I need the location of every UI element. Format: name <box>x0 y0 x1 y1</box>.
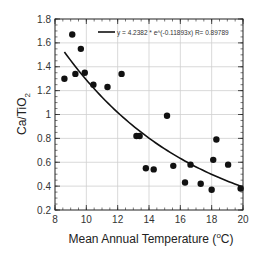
data-point <box>182 179 188 185</box>
x-tick-label: 14 <box>143 214 155 225</box>
data-point <box>151 166 157 172</box>
fit-curve <box>64 52 240 186</box>
data-point <box>72 71 78 77</box>
x-tick-label: 8 <box>52 214 58 225</box>
x-tick-label: 18 <box>206 214 218 225</box>
y-tick-label: 1.4 <box>37 61 51 72</box>
data-point <box>208 187 214 193</box>
data-point <box>104 84 110 90</box>
data-point <box>90 81 96 87</box>
data-point <box>143 165 149 171</box>
x-tick-label: 16 <box>175 214 187 225</box>
y-tick-label: 0.6 <box>37 157 51 168</box>
data-point <box>198 181 204 187</box>
data-point <box>164 112 170 118</box>
data-point <box>225 161 231 167</box>
legend-label: y = 4.2382 * e^(-0.11893x) R= 0.89789 <box>117 29 229 37</box>
data-point <box>187 161 193 167</box>
y-tick-label: 0.8 <box>37 133 51 144</box>
y-tick-labels: 0.20.40.60.811.21.41.61.8 <box>37 14 51 216</box>
data-point <box>213 136 219 142</box>
data-point <box>118 71 124 77</box>
data-point <box>61 75 67 81</box>
y-tick-label: 0.2 <box>37 205 51 216</box>
data-point <box>170 163 176 169</box>
data-point <box>82 70 88 76</box>
y-tick-label: 1 <box>45 109 51 120</box>
scatter-chart: 8101214161820 0.20.40.60.811.21.41.61.8 … <box>0 0 263 257</box>
y-axis-title: Ca/TiO2 <box>15 92 32 135</box>
data-points <box>61 31 244 193</box>
x-tick-label: 12 <box>112 214 124 225</box>
data-point <box>78 46 84 52</box>
x-axis-title: Mean Annual Temperature (oC) <box>69 231 234 246</box>
data-point <box>210 157 216 163</box>
data-point <box>237 185 243 191</box>
data-point <box>136 133 142 139</box>
x-tick-label: 10 <box>81 214 93 225</box>
y-tick-label: 1.8 <box>37 14 51 25</box>
y-tick-label: 0.4 <box>37 181 51 192</box>
y-tick-label: 1.6 <box>37 37 51 48</box>
x-tick-label: 20 <box>237 214 249 225</box>
legend: y = 4.2382 * e^(-0.11893x) R= 0.89789 <box>98 29 229 37</box>
y-tick-label: 1.2 <box>37 85 51 96</box>
data-point <box>69 31 75 37</box>
x-tick-labels: 8101214161820 <box>52 214 249 225</box>
